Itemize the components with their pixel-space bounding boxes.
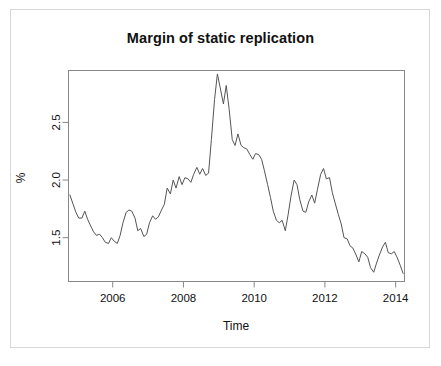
x-axis-title: Time [223, 319, 250, 333]
y-axis-title: % [14, 172, 28, 183]
x-tick-label: 2010 [241, 292, 267, 304]
data-line-series [70, 74, 403, 273]
y-tick-label: 1.5 [51, 230, 63, 246]
y-tick-label: 2.0 [51, 172, 63, 188]
axes-group: 1.52.02.5 20062008201020122014 [51, 71, 410, 304]
x-axis-tick-labels: 20062008201020122014 [100, 292, 409, 304]
y-tick-label: 2.5 [51, 114, 63, 130]
plot-area: 1.52.02.5 20062008201020122014 Time % [0, 0, 441, 366]
x-tick-label: 2012 [312, 292, 338, 304]
y-axis-ticks [63, 122, 69, 237]
chart-figure: Margin of static replication 1.52.02.5 2… [0, 0, 441, 366]
y-axis-tick-labels: 1.52.02.5 [51, 114, 63, 245]
x-axis-ticks [113, 282, 396, 288]
x-tick-label: 2014 [383, 292, 409, 304]
x-tick-label: 2008 [171, 292, 197, 304]
x-tick-label: 2006 [100, 292, 126, 304]
